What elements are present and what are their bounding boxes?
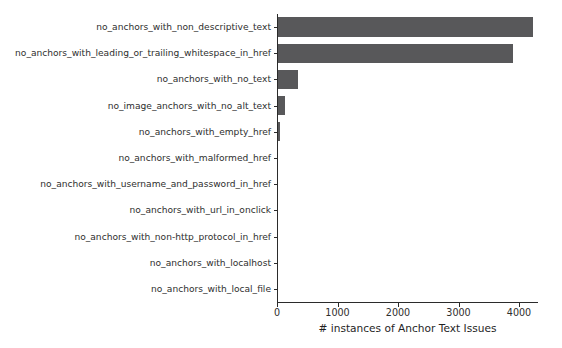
x-tick-mark xyxy=(338,303,339,307)
y-axis-tick-labels: no_anchors_with_non_descriptive_textno_a… xyxy=(0,0,271,348)
bar xyxy=(277,44,513,63)
y-tick-mark xyxy=(274,132,278,133)
y-axis-tick-label: no_anchors_with_username_and_password_in… xyxy=(40,179,271,189)
y-axis-tick-label: no_anchors_with_url_in_onclick xyxy=(130,205,271,215)
y-axis-tick-label: no_anchors_with_leading_or_trailing_whit… xyxy=(15,48,271,58)
y-axis-tick-label: no_anchors_with_no_text xyxy=(157,74,271,84)
y-axis-tick-label: no_anchors_with_local_file xyxy=(151,284,271,294)
x-axis-tick-label: 4000 xyxy=(507,307,531,318)
y-tick-mark xyxy=(274,289,278,290)
y-axis-tick-label: no_anchors_with_localhost xyxy=(150,258,271,268)
x-axis-spine xyxy=(277,302,538,303)
y-axis-spine xyxy=(277,14,278,303)
x-axis-tick-label: 3000 xyxy=(446,307,470,318)
x-tick-mark xyxy=(277,303,278,307)
x-axis-tick-label: 1000 xyxy=(325,307,349,318)
bar xyxy=(277,96,285,115)
y-tick-mark xyxy=(274,237,278,238)
y-tick-mark xyxy=(274,210,278,211)
x-tick-mark xyxy=(459,303,460,307)
x-tick-mark xyxy=(519,303,520,307)
y-tick-mark xyxy=(274,27,278,28)
x-axis-label: # instances of Anchor Text Issues xyxy=(277,322,538,334)
y-axis-tick-label: no_anchors_with_non-http_protocol_in_hre… xyxy=(74,232,271,242)
x-tick-mark xyxy=(398,303,399,307)
x-axis-tick-label: 2000 xyxy=(386,307,410,318)
y-tick-mark xyxy=(274,106,278,107)
y-tick-mark xyxy=(274,53,278,54)
y-tick-mark xyxy=(274,79,278,80)
bar-chart-figure: no_anchors_with_non_descriptive_textno_a… xyxy=(0,0,562,348)
y-tick-mark xyxy=(274,158,278,159)
plot-area xyxy=(277,14,537,303)
bar xyxy=(277,70,298,89)
bar xyxy=(277,17,533,36)
y-axis-tick-label: no_image_anchors_with_no_alt_text xyxy=(108,101,271,111)
x-axis-tick-label: 0 xyxy=(274,307,280,318)
y-axis-tick-label: no_anchors_with_malformed_href xyxy=(118,153,271,163)
y-axis-tick-label: no_anchors_with_empty_href xyxy=(139,127,271,137)
y-axis-tick-label: no_anchors_with_non_descriptive_text xyxy=(96,22,271,32)
y-tick-mark xyxy=(274,263,278,264)
y-tick-mark xyxy=(274,184,278,185)
